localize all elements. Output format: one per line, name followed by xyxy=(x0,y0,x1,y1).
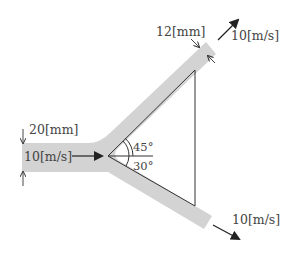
angle-30-label: 30° xyxy=(133,159,153,173)
inlet-diameter-label: 20[mm] xyxy=(29,122,78,137)
lower-outlet-flow-arrow xyxy=(213,225,239,239)
outlet-upper-velocity-label: 10[m/s] xyxy=(231,28,279,43)
inlet-velocity-label: 10[m/s] xyxy=(24,149,72,164)
y-branch-pipe-diagram: 20[mm] 10[m/s] 12[mm] 10[m/s] 10[m/s] 45… xyxy=(0,0,295,258)
angle-arc-45 xyxy=(123,141,129,156)
outlet-upper-diameter-label: 12[mm] xyxy=(156,24,205,39)
outlet-dim-upper-arrow xyxy=(191,39,199,47)
angle-45-label: 45° xyxy=(133,140,153,154)
angle-arc-30 xyxy=(126,156,129,166)
outlet-lower-velocity-label: 10[m/s] xyxy=(232,212,280,227)
